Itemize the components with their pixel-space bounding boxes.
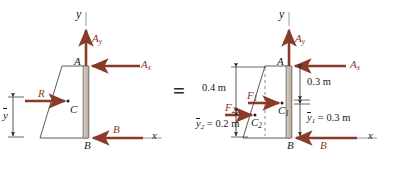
left-point-B-label: B (84, 140, 91, 151)
left-point-A-label: A (74, 56, 81, 67)
figure-canvas: y x Ay Ax B R C A B y = y x Ay Ax B F1 F… (0, 0, 402, 170)
right-column (286, 66, 292, 138)
right-dimension-0.3m-label: 0.3 m (307, 77, 331, 88)
right-force-Ay-label: Ay (295, 33, 305, 45)
left-force-Ay-label: Ay (92, 33, 102, 45)
left-force-R-label: R (38, 88, 45, 99)
equals-operator: = (173, 79, 185, 104)
right-point-A-label: A (277, 56, 284, 67)
left-force-B-label: B (113, 124, 120, 135)
right-dimension-0.4m-label: 0.4 m (202, 83, 226, 94)
right-dimension-ybar1-label: y1 = 0.3 m (307, 113, 350, 125)
right-force-F2-label: F2 (225, 102, 235, 114)
left-x-axis-label: x (152, 130, 157, 141)
left-dimension-ybar (8, 97, 24, 137)
left-force-Ax-label: Ax (141, 59, 151, 71)
left-force-R-arrow (25, 100, 70, 103)
right-y-axis-label: y (279, 8, 284, 20)
right-point-C2-label: C2 (251, 117, 262, 129)
right-force-F1-label: F1 (247, 90, 257, 102)
right-force-B-label: B (320, 140, 327, 151)
right-force-Ax-label: Ax (350, 59, 360, 71)
diagram-svg (0, 0, 402, 170)
right-point-C1-label: C1 (278, 105, 289, 117)
right-x-axis-label: x (368, 130, 373, 141)
left-point-C-label: C (70, 104, 77, 115)
left-y-axis-label: y (76, 8, 81, 20)
left-dimension-ybar-label: y (3, 110, 8, 121)
left-column (83, 66, 89, 138)
right-dimension-ybar2-label: y2 = 0.2 m (196, 119, 239, 131)
right-point-B-label: B (287, 140, 294, 151)
